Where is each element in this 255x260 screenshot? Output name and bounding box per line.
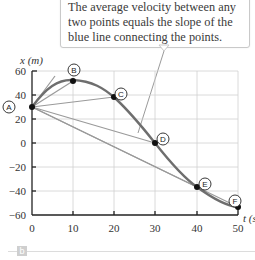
svg-text:−40: −40 bbox=[9, 185, 27, 197]
secant-a-f bbox=[32, 107, 238, 207]
svg-text:−20: −20 bbox=[9, 161, 27, 173]
x-axis-label: t (s bbox=[243, 212, 255, 225]
point-label-b: B bbox=[71, 66, 76, 75]
figure-label-rule bbox=[8, 251, 255, 252]
svg-text:0: 0 bbox=[21, 137, 27, 149]
callout-leader-line bbox=[138, 51, 164, 133]
svg-text:20: 20 bbox=[15, 113, 27, 125]
data-points bbox=[29, 78, 241, 210]
svg-text:60: 60 bbox=[15, 65, 27, 77]
point-a bbox=[29, 104, 35, 110]
svg-text:20: 20 bbox=[109, 222, 121, 234]
point-b bbox=[70, 78, 76, 84]
position-time-chart: A B C D E F 60 40 20 0 −20 −40 −60 0 10 … bbox=[0, 0, 255, 260]
y-axis-label: x (m) bbox=[19, 54, 43, 67]
callout-pointer bbox=[159, 45, 169, 51]
x-tick-labels: 0 10 20 30 40 50 bbox=[29, 222, 244, 234]
svg-text:10: 10 bbox=[68, 222, 80, 234]
point-label-a: A bbox=[6, 103, 12, 112]
point-label-e: E bbox=[202, 180, 207, 189]
secant-a-d bbox=[32, 107, 155, 143]
figure-label: b bbox=[17, 246, 27, 256]
point-label-c: C bbox=[118, 90, 124, 99]
y-tick-labels: 60 40 20 0 −20 −40 −60 bbox=[9, 65, 27, 221]
point-label-group: A B C D E F bbox=[3, 64, 241, 207]
point-label-f: F bbox=[233, 197, 238, 206]
svg-text:30: 30 bbox=[150, 222, 162, 234]
svg-text:0: 0 bbox=[29, 222, 35, 234]
point-label-d: D bbox=[160, 135, 166, 144]
svg-text:40: 40 bbox=[15, 89, 27, 101]
svg-text:40: 40 bbox=[192, 222, 204, 234]
svg-text:−60: −60 bbox=[9, 209, 27, 221]
